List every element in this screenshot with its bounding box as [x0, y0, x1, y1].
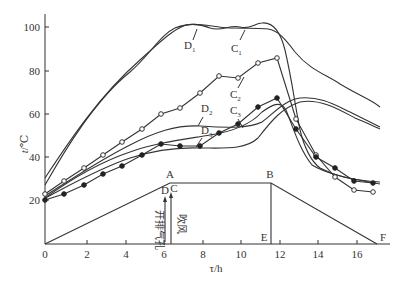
x-tick-label: 0 [42, 248, 48, 260]
label-B: B [266, 168, 273, 180]
series-labels: D1 C1 C2 D2 C3 D3 [184, 29, 245, 147]
series-D2 [45, 98, 380, 196]
line-chart: 20 40 60 80 100 t/℃ 0 2 4 6 8 10 12 14 1… [0, 0, 407, 284]
series-C-cooling [45, 104, 380, 198]
label-C3: C3 [230, 104, 241, 119]
x-tick-label: 2 [84, 248, 90, 260]
label-D: D [161, 184, 169, 196]
axes [45, 14, 390, 244]
label-E: E [261, 231, 268, 243]
svg-text:t/℃: t/℃ [18, 135, 30, 153]
y-tick-label: 60 [29, 108, 41, 120]
y-tick-label: 20 [29, 194, 41, 206]
x-tick-label: 4 [123, 248, 129, 260]
x-tick-label: 10 [236, 248, 248, 260]
event-arrows: D C 开排气孔 吹风 [154, 182, 188, 250]
x-tick-label: 8 [200, 248, 206, 260]
open-vent-label: 开排气孔 [154, 210, 166, 250]
x-ticks: 0 2 4 6 8 10 12 14 16 τ/h [42, 240, 363, 274]
x-tick-label: 14 [313, 248, 325, 260]
label-C: C [170, 182, 177, 194]
y-tick-label: 40 [29, 151, 41, 163]
label-C2: C2 [230, 88, 241, 103]
blow-air-label: 吹风 [176, 214, 188, 234]
label-F: F [380, 231, 386, 243]
label-D1: D1 [184, 39, 196, 54]
x-tick-label: 16 [352, 248, 364, 260]
series-D1 [45, 24, 380, 178]
x-tick-label: 12 [275, 248, 286, 260]
label-C1: C1 [231, 42, 242, 57]
y-tick-label: 100 [24, 21, 41, 33]
x-axis-label: τ/h [210, 262, 223, 274]
y-tick-label: 80 [29, 65, 41, 77]
arrow-up-icon [163, 196, 167, 202]
label-A: A [166, 168, 174, 180]
y-axis-label: t/℃ [18, 135, 30, 153]
label-D2: D2 [201, 102, 213, 117]
